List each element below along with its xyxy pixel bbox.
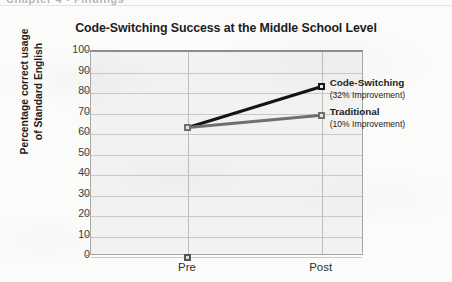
data-point-code-switching-post — [318, 83, 325, 90]
y-tick-label-90: 90 — [56, 64, 90, 76]
line-chart: Code-Switching Success at the Middle Sch… — [0, 0, 452, 282]
annotation-traditional: Traditional(10% Improvement) — [330, 106, 405, 129]
y-axis-title: Percentage correct usage of Standard Eng… — [18, 0, 45, 185]
y-tick-label-30: 30 — [56, 187, 90, 199]
y-tick-label-80: 80 — [56, 84, 90, 96]
x-tick-label-post: Post — [281, 261, 361, 273]
y-tick-label-70: 70 — [56, 105, 90, 117]
annotation-improvement-code-switching: (32% Improvement) — [330, 90, 405, 100]
y-tick-label-100: 100 — [56, 43, 90, 55]
data-point-traditional-post — [318, 112, 325, 119]
y-tick-label-10: 10 — [56, 228, 90, 240]
data-point-stray-pre — [184, 254, 191, 261]
y-tick-mark — [84, 255, 90, 256]
y-tick-label-20: 20 — [56, 207, 90, 219]
gridline — [91, 257, 362, 258]
y-axis-ticks: 1009080706050403020100 — [46, 0, 90, 282]
annotation-improvement-traditional: (10% Improvement) — [330, 119, 405, 129]
data-point-traditional-pre — [184, 124, 191, 131]
y-tick-label-40: 40 — [56, 166, 90, 178]
annotation-label-code-switching: Code-Switching — [330, 77, 405, 88]
x-tick-label-pre: Pre — [147, 261, 227, 273]
y-tick-label-50: 50 — [56, 146, 90, 158]
category-gridline-post — [322, 52, 323, 254]
plot-area — [90, 50, 363, 255]
y-axis-title-line2: of Standard English — [32, 43, 43, 140]
annotation-label-traditional: Traditional — [330, 106, 405, 117]
annotation-code-switching: Code-Switching(32% Improvement) — [330, 77, 405, 100]
y-tick-label-60: 60 — [56, 125, 90, 137]
category-gridline-pre — [188, 52, 189, 254]
y-axis-title-line1: Percentage correct usage — [19, 29, 30, 155]
y-tick-label-0: 0 — [56, 248, 90, 260]
